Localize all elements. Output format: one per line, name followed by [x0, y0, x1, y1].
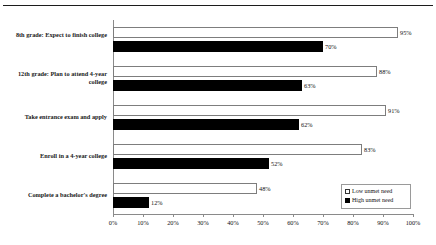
x-axis-tick-label: 10%: [128, 219, 158, 227]
bar-value-label: 70%: [325, 41, 337, 52]
bar-high-unmet-need: [113, 197, 149, 208]
bar-value-label: 52%: [271, 158, 283, 169]
x-axis-tick-label: 70%: [308, 219, 338, 227]
bar-high-unmet-need: [113, 80, 302, 91]
bar-low-unmet-need: [113, 66, 377, 77]
x-axis-tick: [383, 214, 384, 217]
x-axis-tick-label: 50%: [248, 219, 278, 227]
bar-value-label: 12%: [151, 197, 163, 208]
legend-swatch-filled-square-icon: [345, 198, 350, 203]
legend-label-high: High unmet need: [352, 197, 393, 204]
x-axis-tick: [353, 214, 354, 217]
bar-value-label: 95%: [400, 27, 412, 38]
x-axis-tick-label: 0%: [98, 219, 128, 227]
x-axis-tick-label: 20%: [158, 219, 188, 227]
bar-high-unmet-need: [113, 41, 323, 52]
x-axis-tick-label: 40%: [218, 219, 248, 227]
x-axis-tick: [173, 214, 174, 217]
bar-value-label: 48%: [259, 183, 271, 194]
legend-item-high: High unmet need: [345, 196, 407, 205]
legend-label-low: Low unmet need: [352, 188, 392, 195]
bar-low-unmet-need: [113, 183, 257, 194]
x-axis-tick-label: 30%: [188, 219, 218, 227]
bar-low-unmet-need: [113, 27, 398, 38]
x-axis-tick: [203, 214, 204, 217]
bar-value-label: 91%: [388, 105, 400, 116]
x-axis-tick: [233, 214, 234, 217]
bar-value-label: 83%: [364, 144, 376, 155]
chart-legend: Low unmet need High unmet need: [341, 184, 411, 209]
legend-item-low: Low unmet need: [345, 187, 407, 196]
x-axis-tick: [323, 214, 324, 217]
x-axis-tick: [293, 214, 294, 217]
category-label: 8th grade: Expect to finish college: [7, 31, 107, 39]
x-axis-tick: [413, 214, 414, 217]
x-axis-tick: [143, 214, 144, 217]
category-label: Enroll in a 4-year college: [7, 152, 107, 160]
bar-high-unmet-need: [113, 119, 299, 130]
bar-low-unmet-need: [113, 105, 386, 116]
x-axis-tick-label: 60%: [278, 219, 308, 227]
x-axis-tick-label: 80%: [338, 219, 368, 227]
top-horizontal-rule: [3, 5, 433, 6]
chart-figure: 95%70%88%63%91%62%83%52%48%12% 8th grade…: [0, 0, 436, 245]
category-label: Take entrance exam and apply: [7, 113, 107, 121]
category-label: Complete a bachelor's degree: [7, 191, 107, 199]
bar-value-label: 63%: [304, 80, 316, 91]
bar-value-label: 88%: [379, 66, 391, 77]
category-label: 12th grade: Plan to attend 4-year colleg…: [7, 70, 107, 85]
x-axis-tick-label: 90%: [368, 219, 398, 227]
x-axis-tick: [263, 214, 264, 217]
bar-value-label: 62%: [301, 119, 313, 130]
x-axis-tick: [113, 214, 114, 217]
legend-swatch-open-square-icon: [345, 189, 350, 194]
bar-low-unmet-need: [113, 144, 362, 155]
bar-high-unmet-need: [113, 158, 269, 169]
x-axis-tick-label: 100%: [398, 219, 428, 227]
